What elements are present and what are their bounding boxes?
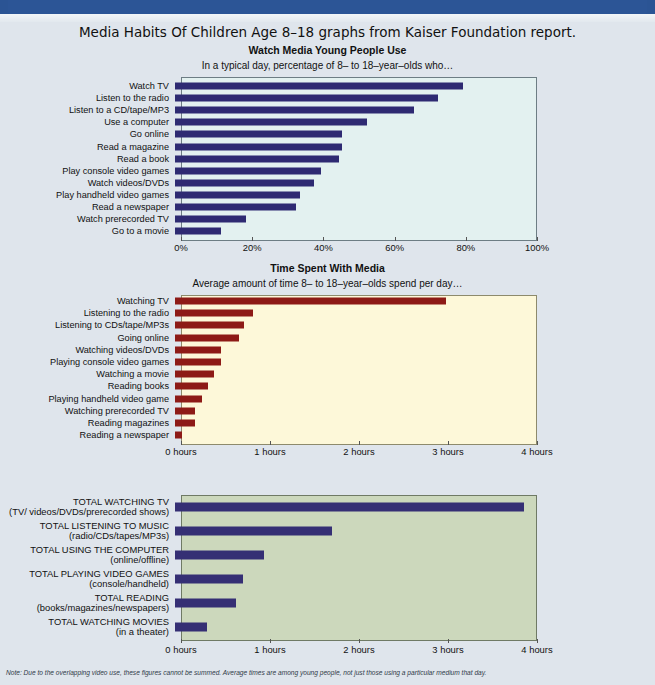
- bar: [175, 419, 195, 426]
- bar-track: [175, 80, 655, 92]
- chart2-x-axis: 0 hours1 hours2 hours3 hours4 hours: [0, 441, 655, 461]
- bar-track: [175, 319, 655, 331]
- chart-bar-row: TOTAL WATCHING MOVIES(in a theater): [0, 615, 655, 639]
- axis-tick: [395, 237, 396, 241]
- bar-track: [175, 543, 655, 567]
- banner-title: [0, 0, 655, 8]
- bar-track: [175, 92, 655, 104]
- chart-bar-row: Playing console video games: [0, 356, 655, 368]
- bar-track: [175, 332, 655, 344]
- chart1-title: Watch Media Young People Use: [0, 44, 655, 56]
- bar-track: [175, 380, 655, 392]
- chart-media-totals: TOTAL WATCHING TV(TV/ videos/DVDs/prerec…: [0, 490, 655, 659]
- axis-tick-label: 1 hours: [254, 446, 285, 457]
- chart-bar-row: Read a book: [0, 153, 655, 165]
- bar-label: TOTAL LISTENING TO MUSIC(radio/CDs/tapes…: [0, 521, 175, 541]
- bar-label: Go online: [0, 129, 175, 139]
- chart-bar-row: Use a computer: [0, 116, 655, 128]
- bar: [175, 310, 253, 317]
- bar-label: Watching TV: [0, 296, 175, 306]
- bar: [175, 359, 221, 366]
- bar-track: [175, 213, 655, 225]
- bar-track: [175, 201, 655, 213]
- bar: [175, 203, 296, 210]
- chart-bar-row: Reading magazines: [0, 417, 655, 429]
- axis-tick: [537, 639, 538, 643]
- footnote: Note: Due to the overlapping video use, …: [6, 668, 651, 677]
- bar-label: Watching a movie: [0, 369, 175, 379]
- bar-track: [175, 153, 655, 165]
- bar-track: [175, 344, 655, 356]
- bar-track: [175, 177, 655, 189]
- chart-bar-row: Go online: [0, 128, 655, 140]
- bar-label: Play console video games: [0, 166, 175, 176]
- bar: [175, 346, 221, 353]
- chart-bar-row: Listen to the radio: [0, 92, 655, 104]
- chart-bar-row: Watching videos/DVDs: [0, 344, 655, 356]
- bar-track: [175, 519, 655, 543]
- chart-bar-row: Play handheld video games: [0, 189, 655, 201]
- bar: [175, 334, 239, 341]
- chart1-bars: Watch TVListen to the radioListen to a C…: [0, 77, 655, 237]
- bar: [175, 216, 246, 223]
- bar-track: [175, 417, 655, 429]
- chart3-x-axis: 0 hours1 hours2 hours3 hours4 hours: [0, 639, 655, 659]
- chart-bar-row: Read a magazine: [0, 140, 655, 152]
- axis-tick-label: 2 hours: [343, 644, 374, 655]
- bar-track: [175, 393, 655, 405]
- bar-track: [175, 429, 655, 441]
- chart2-plot-area: Watching TVListening to the radioListeni…: [0, 295, 655, 461]
- bar-track: [175, 307, 655, 319]
- chart-bar-row: Go to a movie: [0, 225, 655, 237]
- bar: [175, 599, 236, 608]
- bar-track: [175, 189, 655, 201]
- axis-tick-label: 100%: [525, 242, 549, 253]
- bar: [175, 155, 339, 162]
- axis-tick: [270, 441, 271, 445]
- bar-label: Watch TV: [0, 81, 175, 91]
- chart2-subtitle: Average amount of time 8– to 18–year–old…: [0, 277, 655, 290]
- axis-tick: [181, 639, 182, 643]
- bar: [175, 228, 221, 235]
- chart-bar-row: Read a newspaper: [0, 201, 655, 213]
- bar-label: TOTAL WATCHING TV(TV/ videos/DVDs/prerec…: [0, 497, 175, 517]
- bar-track: [175, 128, 655, 140]
- axis-tick-label: 2 hours: [343, 446, 374, 457]
- chart-bar-row: Reading a newspaper: [0, 429, 655, 441]
- chart-time-spent-with-media: Time Spent With Media Average amount of …: [0, 262, 655, 461]
- bar-label: Playing handheld video game: [0, 394, 175, 404]
- bar-track: [175, 591, 655, 615]
- bar: [175, 383, 208, 390]
- bar-label: Watch prerecorded TV: [0, 214, 175, 224]
- chart1-x-axis: 0%20%40%60%80%100%: [0, 237, 655, 257]
- bar: [175, 551, 264, 560]
- bar-label: Listening to the radio: [0, 308, 175, 318]
- chart-bar-row: Reading books: [0, 380, 655, 392]
- chart3-bars: TOTAL WATCHING TV(TV/ videos/DVDs/prerec…: [0, 495, 655, 639]
- bar: [175, 503, 524, 512]
- bar-label: TOTAL USING THE COMPUTER(online/offline): [0, 545, 175, 565]
- bar-label: TOTAL READING(books/magazines/newspapers…: [0, 593, 175, 613]
- page-top-strip: [0, 14, 655, 22]
- bar: [175, 407, 195, 414]
- bar: [175, 119, 367, 126]
- axis-tick: [466, 237, 467, 241]
- axis-tick: [448, 639, 449, 643]
- bar: [175, 191, 300, 198]
- axis-tick: [181, 237, 182, 241]
- bar-track: [175, 567, 655, 591]
- axis-tick-label: 20%: [243, 242, 262, 253]
- bar-track: [175, 295, 655, 307]
- axis-tick-label: 3 hours: [432, 446, 463, 457]
- bar-track: [175, 225, 655, 237]
- chart-bar-row: Watching TV: [0, 295, 655, 307]
- chart-bar-row: TOTAL LISTENING TO MUSIC(radio/CDs/tapes…: [0, 519, 655, 543]
- axis-tick: [537, 237, 538, 241]
- bar: [175, 131, 342, 138]
- bar-label: Watching prerecorded TV: [0, 406, 175, 416]
- axis-tick-label: 4 hours: [521, 446, 552, 457]
- axis-tick: [359, 441, 360, 445]
- axis-tick-label: 0 hours: [165, 446, 196, 457]
- bar-label: Read a newspaper: [0, 202, 175, 212]
- bar: [175, 83, 463, 90]
